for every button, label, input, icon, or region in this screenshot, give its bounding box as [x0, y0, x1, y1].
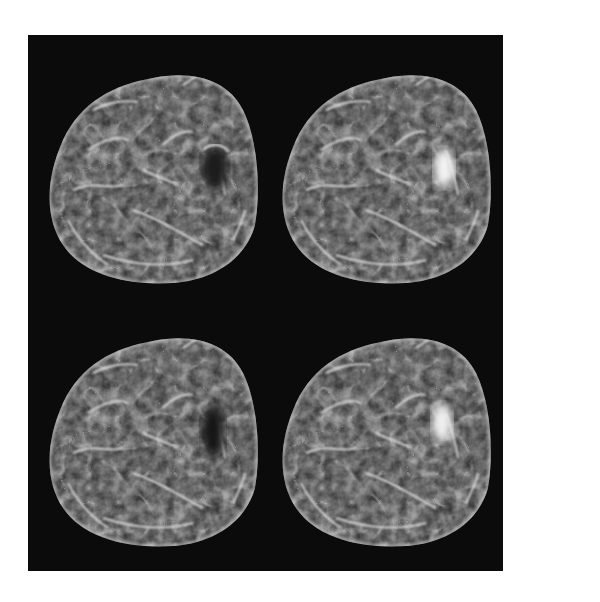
scan-top-left: [33, 40, 273, 300]
lesion-bright: [434, 149, 454, 187]
lesion-dark: [202, 146, 228, 190]
lesion-dark: [202, 405, 224, 457]
image-grid-panel: [28, 35, 503, 571]
scan-bottom-left: [33, 303, 273, 563]
scan-top-right: [266, 40, 503, 300]
lesion-bright: [432, 404, 452, 442]
scan-bottom-right: [266, 303, 503, 563]
scan-grid: [28, 35, 503, 571]
